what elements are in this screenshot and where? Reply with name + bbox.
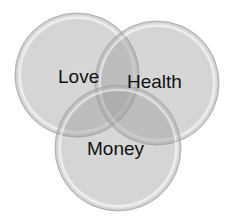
venn-diagram: Love Health Money xyxy=(0,0,232,224)
label-money: Money xyxy=(87,138,145,159)
label-love: Love xyxy=(58,66,99,87)
label-health: Health xyxy=(127,71,182,92)
